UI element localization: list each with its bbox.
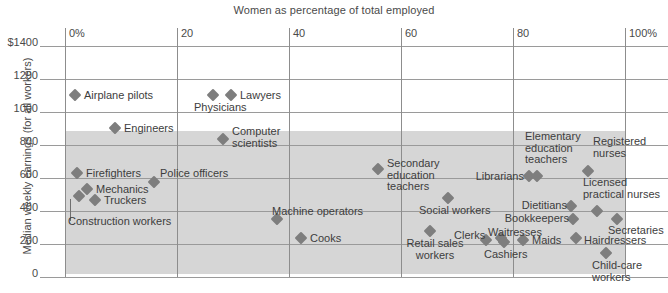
- gridline-x-80: [513, 28, 514, 277]
- y-tick-0: 0: [0, 267, 38, 279]
- x-tick-60: 60: [401, 27, 417, 39]
- label-physicians: Physicians: [194, 102, 247, 114]
- point-physicians[interactable]: [207, 89, 220, 102]
- label-maids: Maids: [532, 235, 561, 247]
- label-police-officers: Police officers: [160, 168, 228, 180]
- gridline-x-60: [401, 28, 402, 277]
- gridline-1000: [40, 112, 668, 113]
- label-bookkeepers: Bookkeepers: [470, 213, 569, 225]
- y-tick-800: 800: [0, 135, 38, 147]
- label-machine-operators: Machine operators: [272, 206, 363, 218]
- x-tick-80: 80: [513, 27, 529, 39]
- label-child-care-workers: Child-care workers: [592, 260, 642, 283]
- label-engineers: Engineers: [124, 123, 174, 135]
- gridline-1400: [40, 46, 668, 47]
- scatter-chart: Women as percentage of total employed Me…: [0, 0, 668, 293]
- point-lawyers[interactable]: [225, 89, 238, 102]
- label-truckers: Truckers: [104, 195, 146, 207]
- x-tick-20: 20: [177, 27, 193, 39]
- x-tick-0: 0%: [65, 27, 85, 39]
- gridline-x-20: [177, 28, 178, 277]
- gridline-0: [40, 277, 668, 278]
- label-construction-workers: Construction workers: [68, 216, 171, 228]
- label-licensed-practical-nurses: Licensed practical nurses: [583, 177, 660, 200]
- label-cooks: Cooks: [310, 233, 341, 245]
- label-librarians: Librarians: [450, 171, 524, 183]
- y-axis-title: Median weekly earnings (for all workers): [21, 51, 33, 261]
- label-dietitians: Dietitians: [489, 200, 567, 212]
- gridline-200: [40, 244, 668, 245]
- label-clerks: Clerks: [454, 230, 485, 242]
- y-tick-200: 200: [0, 234, 38, 246]
- gridline-x-40: [289, 28, 290, 277]
- point-airplane-pilots[interactable]: [69, 89, 82, 102]
- label-secondary-education-teachers: Secondary education teachers: [387, 158, 440, 193]
- x-axis-title: Women as percentage of total employed: [0, 4, 668, 16]
- label-lawyers: Lawyers: [240, 90, 281, 102]
- x-tick-40: 40: [289, 27, 305, 39]
- y-tick-1000: 1000: [0, 102, 38, 114]
- y-tick-400: 400: [0, 201, 38, 213]
- x-tick-100: 100%: [625, 27, 657, 39]
- label-airplane-pilots: Airplane pilots: [84, 90, 153, 102]
- label-firefighters: Firefighters: [86, 168, 141, 180]
- gridline-x-0: [65, 28, 66, 277]
- label-registered-nurses: Registered nurses: [593, 136, 646, 159]
- gridline-1200: [40, 79, 668, 80]
- label-elementary-education-teachers: Elementary education teachers: [525, 131, 581, 166]
- y-tick-600: 600: [0, 168, 38, 180]
- y-tick-1200: 1200: [0, 69, 38, 81]
- label-computer-scientists: Computer scientists: [232, 126, 280, 149]
- label-cashiers: Cashiers: [484, 249, 527, 261]
- label-hairdressers: Hairdressers: [584, 235, 646, 247]
- y-tick-1400: $1400: [0, 36, 38, 48]
